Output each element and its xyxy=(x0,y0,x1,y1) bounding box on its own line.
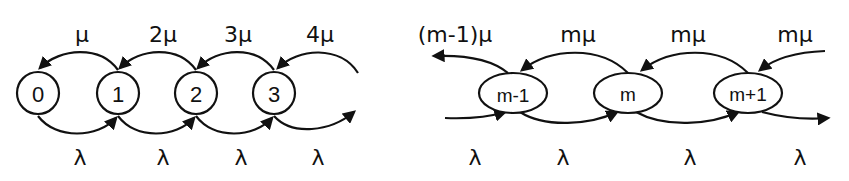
edge-m-1-to-m-2 xyxy=(434,56,508,73)
state-node-0: 0 xyxy=(17,72,59,114)
birth-rate-label: λ xyxy=(468,145,481,170)
edge-1-to-0 xyxy=(40,52,118,70)
birth-rate-label: λ xyxy=(234,145,247,170)
state-label: 1 xyxy=(112,82,124,107)
edge-m-to-m+1 xyxy=(636,112,738,123)
death-rate-label: mμ xyxy=(560,22,595,47)
death-rate-label: mμ xyxy=(777,22,812,47)
state-node-3: 3 xyxy=(253,72,295,114)
edge-2-to-1 xyxy=(120,52,196,70)
state-label: m-1 xyxy=(497,85,530,106)
birth-rate-label: λ xyxy=(556,145,569,170)
state-label: 2 xyxy=(190,82,202,107)
birth-rate-label: λ xyxy=(683,145,696,170)
left-chain: 0 1 2 3 μ 2μ 3μ 4μ λ λ λ λ xyxy=(17,22,358,170)
death-rate-label: 3μ xyxy=(224,22,252,47)
state-label: 0 xyxy=(32,82,44,107)
birth-rate-label: λ xyxy=(311,145,324,170)
edge-m+2-to-m+1 xyxy=(760,51,825,70)
state-node-2: 2 xyxy=(175,72,217,114)
state-label: m+1 xyxy=(729,84,767,105)
edge-m+1-to-m xyxy=(642,53,748,73)
edge-m-to-m-1 xyxy=(522,53,628,73)
edge-3-to-4 xyxy=(274,112,354,129)
death-rate-label: μ xyxy=(75,22,89,47)
edge-3-to-2 xyxy=(198,52,274,70)
right-chain: m-1 m m+1 (m-1)μ mμ mμ mμ λ λ λ λ xyxy=(418,22,828,170)
edge-1-to-2 xyxy=(118,116,194,134)
death-rate-label: (m-1)μ xyxy=(418,22,493,47)
state-node-m-1: m-1 xyxy=(479,73,547,113)
birth-death-diagram: 0 1 2 3 μ 2μ 3μ 4μ λ λ λ λ xyxy=(0,0,849,181)
birth-rate-label: λ xyxy=(73,145,86,170)
death-rate-label: mμ xyxy=(670,22,705,47)
state-label: m xyxy=(620,84,636,105)
edge-2-to-3 xyxy=(196,116,272,134)
birth-rate-label: λ xyxy=(793,145,806,170)
state-node-m: m xyxy=(594,73,662,113)
edge-m+1-to-m+2 xyxy=(762,112,828,119)
state-label: 3 xyxy=(268,82,280,107)
edge-m-2-to-m-1 xyxy=(445,112,505,118)
death-rate-label: 4μ xyxy=(306,22,334,47)
death-rate-label: 2μ xyxy=(149,22,177,47)
edge-0-to-1 xyxy=(38,116,116,134)
state-node-m+1: m+1 xyxy=(714,73,782,113)
edge-4-to-3 xyxy=(278,52,358,73)
edge-m-1-to-m xyxy=(520,112,617,123)
birth-rate-label: λ xyxy=(156,145,169,170)
state-node-1: 1 xyxy=(97,72,139,114)
